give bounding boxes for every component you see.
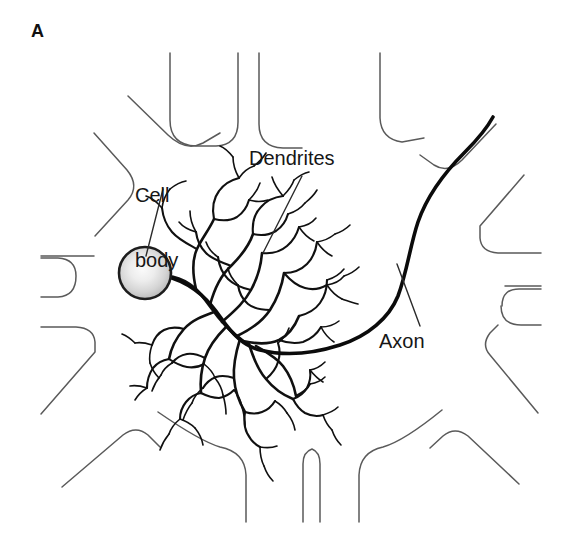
tissue-outline-right-3 — [502, 289, 541, 306]
dendrite-branch — [243, 316, 299, 344]
dendrite-twig — [135, 343, 152, 345]
dendrite-branch — [201, 390, 234, 398]
tissue-outline-left-3 — [41, 327, 95, 414]
tissue-outlines-group — [41, 53, 541, 522]
tissue-outline-right-1 — [486, 325, 539, 413]
dendrite-twig — [335, 225, 350, 234]
dendrite-branch — [214, 200, 249, 220]
dendrite-twig — [321, 321, 339, 327]
dendrite-twig — [204, 364, 215, 378]
dendrite-twig — [317, 234, 335, 242]
dendrite-branch — [237, 273, 284, 336]
dendrite-twig — [249, 183, 260, 200]
dendrite-twig — [275, 401, 287, 413]
dendrite-twig — [135, 388, 147, 400]
dendrite-twig — [215, 378, 223, 395]
dendrite-twig — [323, 407, 338, 415]
dendrite-branch — [172, 354, 205, 363]
tissue-outline-bottom-left-1 — [62, 430, 160, 487]
figure-panel: A — [0, 0, 579, 536]
label-cell-body: Cell body — [135, 142, 178, 315]
dendrite-twig — [264, 466, 273, 481]
label-dendrites: Dendrites — [249, 148, 335, 170]
dendrite-twig — [233, 157, 239, 178]
dendrite-twig — [287, 413, 295, 430]
dendrite-twig — [190, 211, 196, 232]
dendrite-branch — [213, 178, 239, 219]
dendrite-twig — [332, 430, 341, 445]
dendrite-branch — [266, 343, 280, 379]
dendrite-twig — [161, 363, 172, 375]
dendrite-twig — [317, 242, 332, 256]
dendrite-twig — [305, 190, 317, 203]
dendrite-branch — [284, 273, 327, 289]
dendrite-twig — [260, 446, 277, 448]
tissue-outline-bottom-3 — [359, 410, 442, 522]
label-cell-body-line2: body — [135, 250, 178, 272]
dendrite-branch — [234, 339, 245, 412]
dendrite-twig — [249, 200, 268, 202]
dendrite-branch — [284, 242, 317, 273]
dendrite-twig — [220, 146, 233, 157]
tissue-outline-right-5 — [480, 175, 541, 253]
dendrite-branch — [262, 227, 299, 253]
dendrite-branch — [210, 234, 253, 305]
dendrite-twig — [342, 299, 358, 304]
dendrite-twig — [344, 267, 359, 276]
tissue-outline-left-2 — [41, 258, 76, 297]
dendrite-twig — [323, 415, 332, 430]
leader-line-dendrites — [263, 176, 302, 253]
dendrite-branch — [196, 232, 231, 266]
dendrite-twig — [223, 395, 226, 414]
dendrite-twig — [327, 285, 342, 299]
neuron-diagram-svg — [0, 0, 579, 536]
dendrite-branch — [253, 214, 288, 235]
dendrite-branch — [293, 399, 323, 416]
tissue-outline-right-2 — [501, 306, 541, 325]
dendrite-branch — [244, 412, 260, 447]
dendrite-twig — [130, 386, 147, 388]
dendrite-twig — [150, 345, 152, 363]
dendrite-twig — [160, 434, 169, 450]
dendrite-twig — [180, 419, 195, 428]
tissue-outline-upper-left-1 — [128, 96, 220, 146]
label-axon: Axon — [379, 331, 425, 353]
tissue-outline-upper-left-2 — [94, 133, 134, 236]
tissue-outline-bottom-right-1 — [430, 431, 519, 484]
dendrite-twig — [321, 327, 334, 342]
dendrite-twig — [288, 203, 305, 214]
dendrite-twig — [272, 177, 283, 196]
dendrite-twig — [260, 447, 264, 466]
dendrite-branch — [299, 280, 327, 316]
leader-line-axon — [397, 264, 420, 326]
dendrite-twig — [299, 227, 314, 241]
tissue-outline-top-1 — [170, 53, 238, 146]
dendrite-branch — [245, 401, 275, 414]
label-cell-body-line1: Cell — [135, 185, 178, 207]
dendrite-twig — [327, 276, 344, 285]
dendrite-twig — [310, 362, 325, 370]
dendrite-twig — [152, 375, 161, 391]
tissue-outline-top-3 — [380, 53, 424, 142]
dendrite-branch — [193, 219, 214, 289]
leader-lines-group — [146, 176, 420, 326]
tissue-outline-top-2 — [259, 53, 302, 148]
dendrite-twig — [299, 218, 316, 227]
dendrite-twig — [122, 334, 135, 343]
tissue-outline-bottom-2 — [303, 449, 320, 522]
dendrite-branch — [201, 327, 226, 393]
